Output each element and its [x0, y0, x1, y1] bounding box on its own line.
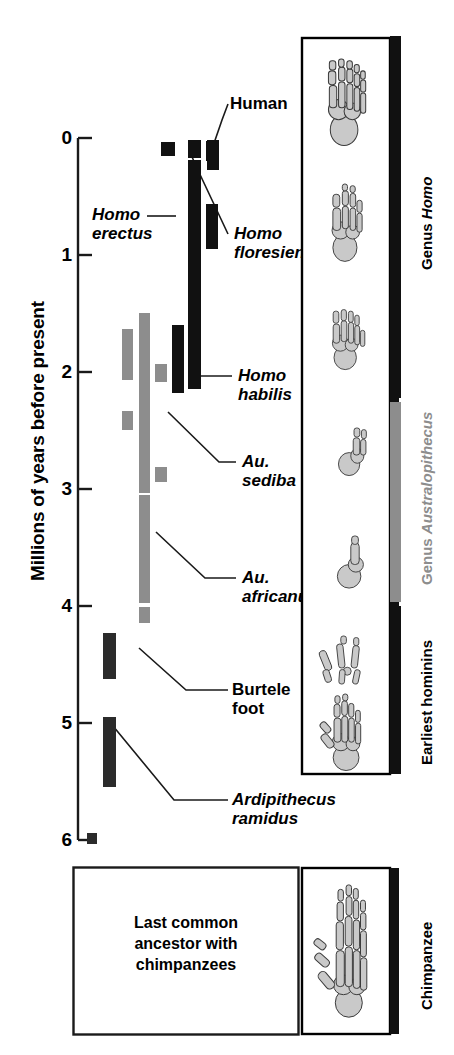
- label-homo-erectus-line2: erectus: [92, 224, 164, 243]
- label-human: Human: [230, 94, 288, 113]
- bar-gray-c3-c: [139, 495, 150, 603]
- bar-group-au-sediba: [155, 364, 167, 482]
- label-au-africanus-line1: Au.: [242, 568, 269, 587]
- bar-gray-c3-a: [139, 313, 150, 391]
- leader-au-sediba: [168, 412, 236, 462]
- bar-gray-c2-top: [122, 329, 133, 380]
- chimpanzee-label: Chimpanzee: [418, 922, 435, 1010]
- label-burtele-line2: foot: [232, 699, 264, 718]
- y-axis: [78, 138, 92, 840]
- lca-line-2: ancestor with: [72, 933, 300, 954]
- label-ardipithecus-line2: ramidus: [232, 809, 298, 828]
- leader-au-africanus: [156, 532, 236, 578]
- foot-skeleton-panel: [300, 36, 400, 776]
- earliest-hominins-label: Earliest hominins: [418, 640, 435, 765]
- label-au-sediba-line1: Au.: [242, 452, 269, 471]
- bar-homo-erectus: [188, 160, 201, 389]
- bar-au-sediba-a: [155, 364, 167, 382]
- genus-australopithecus-label: Genus Australopithecus: [418, 412, 435, 585]
- bar-group-column-3: [139, 313, 150, 623]
- y-tick-1: 1: [46, 244, 72, 266]
- leader-ardipithecus: [113, 726, 228, 800]
- bar-lca-marker: [87, 833, 97, 844]
- genus-australopithecus-roman: Genus: [418, 534, 435, 585]
- bar-gray-c3-b: [139, 391, 150, 493]
- bar-human: [207, 140, 219, 170]
- bar-homo-floresiensis: [206, 204, 218, 249]
- hominin-evolution-figure: Millions of years before present: [0, 0, 454, 1055]
- label-homo-habilis-line2: habilis: [238, 385, 292, 404]
- chimpanzee-foot-panel: [300, 866, 400, 1036]
- label-ardipithecus-line1: Ardipithecus: [232, 790, 336, 809]
- y-tick-5: 5: [46, 712, 72, 734]
- lca-line-1: Last common: [72, 912, 300, 933]
- y-tick-2: 2: [46, 361, 72, 383]
- bar-au-sediba-b: [155, 467, 167, 482]
- genus-homo-italic: Homo: [418, 177, 435, 220]
- y-tick-4: 4: [46, 595, 72, 617]
- bar-group-dark-c5: [172, 325, 184, 393]
- bar-homo-erectus-upper: [188, 140, 201, 158]
- label-burtele-line1: Burtele: [232, 680, 291, 699]
- label-homo-erectus-line1: Homo: [92, 205, 150, 224]
- genus-australopithecus-bar: [390, 402, 401, 602]
- lca-line-3: chimpanzees: [72, 954, 300, 975]
- label-homo-floresiensis-line1: Homo: [234, 224, 282, 243]
- y-tick-3: 3: [46, 478, 72, 500]
- label-homo-habilis-line1: Homo: [238, 366, 286, 385]
- bar-group-column-2: [122, 329, 133, 430]
- bar-gray-c2-mid: [122, 411, 133, 430]
- y-tick-0: 0: [46, 127, 72, 149]
- bar-group-human: [207, 140, 219, 170]
- bar-dark-c5: [172, 325, 184, 393]
- genus-range-bars: [390, 36, 404, 776]
- genus-australopithecus-italic: Australopithecus: [418, 412, 435, 535]
- label-au-sediba-line2: sediba: [242, 471, 296, 490]
- genus-earliest-hominins-bar: [390, 606, 401, 774]
- lca-text-block: Last common ancestor with chimpanzees: [72, 912, 300, 975]
- bar-burtele-foot: [103, 633, 116, 679]
- bar-gray-c3-d: [139, 607, 150, 623]
- bar-ardipithecus-ramidus: [103, 717, 116, 787]
- leader-burtele: [139, 648, 228, 690]
- genus-homo-bar: [390, 36, 401, 398]
- y-tick-6: 6: [46, 829, 72, 851]
- bar-group-earliest-hominins: [87, 633, 116, 844]
- bar-homo-top-square: [161, 142, 175, 156]
- genus-homo-roman: Genus: [418, 219, 435, 270]
- genus-homo-label: Genus Homo: [418, 177, 435, 270]
